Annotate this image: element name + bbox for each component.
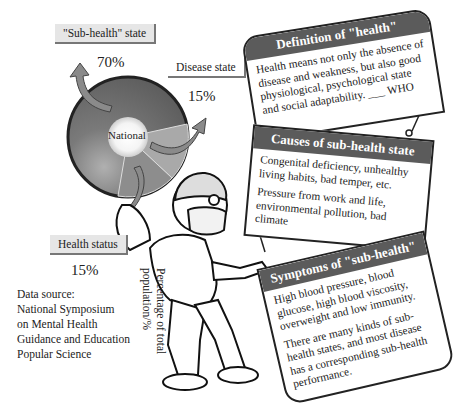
disease-label: Disease state bbox=[168, 58, 246, 78]
source-line: Data source: bbox=[17, 287, 177, 302]
health-label: Health status bbox=[50, 235, 128, 255]
disease-percent: 15% bbox=[188, 88, 216, 105]
source-line: on Mental Health bbox=[17, 317, 177, 332]
pie-center-label: National bbox=[108, 129, 146, 141]
source-line: National Symposium bbox=[17, 302, 177, 317]
data-source: Data source: National Symposium on Menta… bbox=[17, 287, 177, 362]
causes-panel: Causes of sub-health state Congenital de… bbox=[243, 124, 434, 251]
source-line: Popular Science bbox=[17, 347, 177, 362]
health-percent: 15% bbox=[71, 262, 99, 279]
subhealth-percent: 70% bbox=[97, 54, 125, 71]
causes-text: Pressure from work and life, environment… bbox=[254, 185, 419, 239]
subhealth-label: "Sub-health" state bbox=[55, 24, 156, 44]
source-line: Guidance and Education bbox=[17, 332, 177, 347]
